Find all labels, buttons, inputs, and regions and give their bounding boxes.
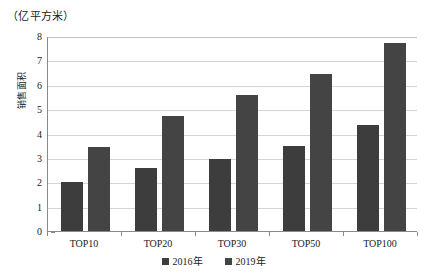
x-axis-tick-mark: [417, 232, 418, 236]
x-axis-label-top20: TOP20: [128, 238, 188, 250]
y-axis-tick-label: 6: [12, 81, 42, 91]
gridline: [48, 37, 417, 38]
unit-label: （亿平方米）: [7, 7, 75, 23]
y-axis-tick-label: 1: [12, 203, 42, 213]
y-axis-tick-labels: 012345678: [8, 37, 42, 232]
legend-swatch-icon: [225, 258, 232, 265]
y-axis-tick-label: 7: [12, 56, 42, 66]
legend-swatch-icon: [162, 258, 169, 265]
gridline: [48, 61, 417, 62]
bar-top100-2019年: [384, 43, 406, 231]
bar-top10-2016年: [61, 182, 83, 231]
bar-top20-2016年: [135, 168, 157, 231]
x-axis-label-top10: TOP10: [54, 238, 114, 250]
legend-item-2019年[interactable]: 2019年: [225, 256, 266, 267]
plot-area: [47, 37, 417, 232]
legend-label: 2019年: [236, 256, 266, 267]
y-axis-tick-label: 3: [12, 154, 42, 164]
y-axis-tick-label: 0: [12, 227, 42, 237]
bar-top50-2016年: [283, 146, 305, 231]
x-axis-tick-mark: [269, 232, 270, 236]
bar-top30-2019年: [236, 95, 258, 232]
x-axis-tick-mark: [47, 232, 48, 236]
legend-item-2016年[interactable]: 2016年: [162, 256, 203, 267]
bar-top30-2016年: [209, 159, 231, 231]
gridline: [48, 110, 417, 111]
bar-top50-2019年: [310, 74, 332, 231]
bar-top20-2019年: [162, 116, 184, 231]
x-axis-tick-mark: [343, 232, 344, 236]
x-axis-tick-mark: [121, 232, 122, 236]
x-axis-label-top50: TOP50: [276, 238, 336, 250]
y-axis-tick-label: 4: [12, 130, 42, 140]
bar-top100-2016年: [357, 125, 379, 231]
x-axis-label-top100: TOP100: [350, 238, 410, 250]
x-axis-label-top30: TOP30: [202, 238, 262, 250]
chart-legend: 2016年2019年: [0, 256, 427, 267]
y-axis-tick-label: 5: [12, 105, 42, 115]
gridline: [48, 86, 417, 87]
x-axis-tick-mark: [195, 232, 196, 236]
y-axis-tick-label: 2: [12, 178, 42, 188]
bar-chart: （亿平方米） 销售面积 012345678 TOP10TOP20TOP30TOP…: [0, 0, 427, 276]
y-axis-tick-label: 8: [12, 32, 42, 42]
bar-top10-2019年: [88, 147, 110, 231]
y-axis-tick-mark: [51, 232, 55, 233]
legend-label: 2016年: [173, 256, 203, 267]
